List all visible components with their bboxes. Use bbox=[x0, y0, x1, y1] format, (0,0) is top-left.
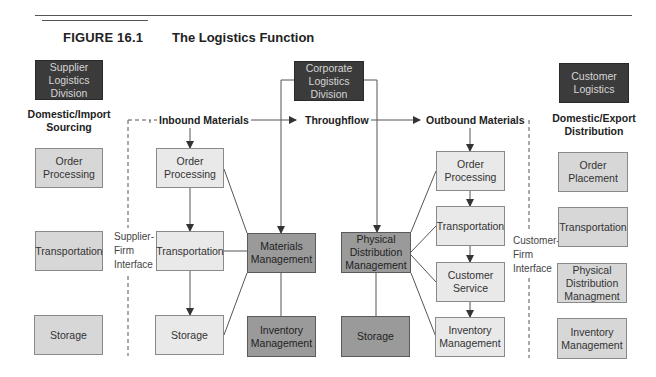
outbound-customer-service: Customer Service bbox=[436, 262, 505, 302]
customer-logistics: Customer Logistics bbox=[559, 63, 629, 103]
supplier-logistics-division: Supplier Logistics Division bbox=[35, 60, 103, 100]
box-label: Customer Service bbox=[448, 269, 494, 295]
box-label: Storage bbox=[357, 330, 394, 343]
supplier-header-label: Supplier Logistics Division bbox=[49, 61, 90, 100]
box-label: Materials Management bbox=[251, 240, 312, 266]
throughflow-label: Throughflow bbox=[303, 114, 371, 127]
box-label: Transportation bbox=[35, 245, 102, 258]
customer-transportation: Transportation bbox=[558, 207, 628, 247]
inbound-materials-label: Inbound Materials bbox=[157, 114, 251, 127]
domestic-import-sourcing-label: Domestic/Import Sourcing bbox=[27, 108, 111, 134]
outbound-inventory-management: Inventory Management bbox=[435, 317, 505, 357]
materials-management: Materials Management bbox=[247, 233, 316, 273]
customer-header-label: Customer Logistics bbox=[571, 70, 617, 96]
box-label: Storage bbox=[50, 329, 87, 342]
inbound-storage: Storage bbox=[155, 315, 224, 355]
customer-order-placement: Order Placement bbox=[558, 152, 628, 192]
materials-inventory-management: Inventory Management bbox=[247, 316, 316, 357]
box-label: Transportation bbox=[156, 245, 223, 258]
box-label: Inventory Management bbox=[251, 324, 312, 350]
box-label: Inventory Management bbox=[561, 326, 622, 352]
supplier-order-processing: Order Processing bbox=[35, 148, 103, 188]
box-label: Physical Distribution Managment bbox=[564, 264, 619, 303]
corporate-logistics-division: Corporate Logistics Division bbox=[294, 61, 364, 101]
box-label: Physical Distribution Management bbox=[345, 233, 406, 272]
box-label: Order Processing bbox=[43, 155, 95, 181]
box-label: Order Processing bbox=[164, 155, 216, 181]
outbound-materials-label: Outbound Materials bbox=[424, 114, 527, 127]
supplier-transportation: Transportation bbox=[35, 231, 103, 271]
customer-firm-interface-label: Customer- Firm Interface bbox=[513, 234, 560, 276]
inbound-transportation: Transportation bbox=[156, 231, 224, 271]
customer-inventory-management: Inventory Management bbox=[557, 318, 627, 359]
supplier-firm-interface-label: Supplier- Firm Interface bbox=[114, 230, 154, 272]
outbound-transportation: Transportation bbox=[436, 206, 505, 246]
physical-distribution-storage: Storage bbox=[341, 316, 410, 357]
box-label: Order Placement bbox=[568, 159, 618, 185]
box-label: Storage bbox=[171, 329, 208, 342]
physical-distribution-management: Physical Distribution Management bbox=[341, 232, 411, 273]
box-label: Transportation bbox=[559, 221, 626, 234]
corporate-header-label: Corporate Logistics Division bbox=[306, 62, 353, 101]
inbound-order-processing: Order Processing bbox=[156, 148, 224, 188]
domestic-export-distribution-label: Domestic/Export Distribution bbox=[550, 112, 638, 138]
box-label: Transportation bbox=[437, 220, 504, 233]
supplier-storage: Storage bbox=[34, 315, 103, 355]
box-label: Inventory Management bbox=[439, 324, 500, 350]
customer-physical-distribution-management: Physical Distribution Managment bbox=[557, 263, 627, 303]
box-label: Order Processing bbox=[445, 158, 497, 184]
outbound-order-processing: Order Processing bbox=[436, 151, 505, 191]
